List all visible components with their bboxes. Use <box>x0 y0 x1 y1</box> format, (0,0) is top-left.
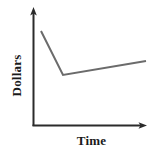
x-axis-label: Time <box>0 134 159 147</box>
chart-figure: Dollars Time <box>0 0 159 151</box>
y-axis-label: Dollars <box>10 0 24 151</box>
